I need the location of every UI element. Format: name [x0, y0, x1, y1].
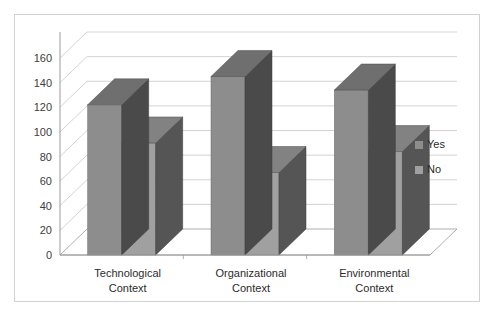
- x-axis-category-label: Environmental: [339, 267, 409, 279]
- bar-side-face: [368, 64, 395, 255]
- legend-swatch: [415, 166, 423, 174]
- legend-swatch: [415, 141, 423, 149]
- y-axis-tick-label: 80: [40, 151, 52, 163]
- y-axis-tick-label: 20: [40, 224, 52, 236]
- y-axis-tick-label: 60: [40, 175, 52, 187]
- bar-front-face: [334, 90, 368, 255]
- x-axis-category-label: Context: [355, 282, 393, 294]
- bar-column: [211, 50, 272, 255]
- bar-column: [334, 64, 395, 255]
- x-axis-category-label: Organizational: [216, 267, 287, 279]
- legend-label: Yes: [427, 138, 445, 150]
- x-axis-category-label: Context: [109, 282, 147, 294]
- bar-column: [88, 79, 149, 255]
- document-text-sliver: [0, 0, 495, 13]
- y-axis-tick-label: 160: [34, 52, 52, 64]
- bars-group: [88, 50, 430, 255]
- gridline-connector: [60, 32, 87, 58]
- gridline-connector: [60, 57, 87, 83]
- bar-front-face: [88, 105, 122, 255]
- bar-side-face: [245, 50, 272, 255]
- chart-frame: 020406080100120140160TechnologicalContex…: [14, 14, 480, 302]
- gridline-connector: [60, 155, 87, 181]
- y-axis-tick-label: 0: [46, 249, 52, 261]
- x-axis-category-label: Context: [232, 282, 270, 294]
- gridline-connector: [60, 106, 87, 132]
- y-axis-tick-label: 120: [34, 101, 52, 113]
- bar-front-face: [211, 76, 245, 255]
- gridline-connector: [60, 180, 87, 206]
- gridline-connector: [60, 204, 87, 230]
- bar-side-face: [122, 79, 149, 255]
- y-axis-tick-label: 40: [40, 200, 52, 212]
- gridline-connector: [60, 81, 87, 107]
- chart-canvas: 020406080100120140160TechnologicalContex…: [15, 15, 481, 303]
- gridline-connector: [60, 131, 87, 157]
- legend-label: No: [427, 163, 441, 175]
- x-axis-category-label: Technological: [94, 267, 161, 279]
- y-axis-tick-label: 140: [34, 77, 52, 89]
- y-axis-tick-label: 100: [34, 126, 52, 138]
